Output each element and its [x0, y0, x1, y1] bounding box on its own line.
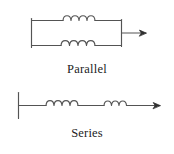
series-first-inductor-coil — [46, 101, 78, 106]
inductor-figure: Parallel Series — [0, 0, 174, 154]
parallel-top-inductor-coil — [63, 16, 95, 21]
series-second-inductor-coil — [104, 101, 127, 106]
series-caption: Series — [0, 126, 174, 141]
parallel-circuit-group — [32, 16, 147, 48]
series-circuit-group — [19, 93, 161, 119]
parallel-caption: Parallel — [0, 62, 174, 77]
parallel-bottom-inductor-coil — [61, 41, 95, 46]
